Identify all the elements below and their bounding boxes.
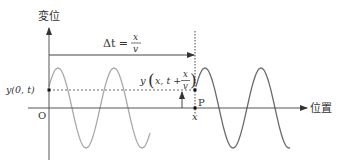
- point-p-label: P: [198, 97, 205, 108]
- point-x-label: x: [192, 111, 198, 122]
- delta-t-denominator: v: [133, 44, 138, 54]
- right-point-marker: [194, 89, 197, 92]
- x-axis-label: 位置: [310, 101, 332, 115]
- delta-t-lhs: Δt =: [103, 37, 128, 50]
- origin-label: O: [38, 110, 46, 121]
- left-point-marker: [48, 89, 51, 92]
- point-p-marker: [194, 107, 197, 110]
- y-axis-label: 変位: [38, 9, 60, 23]
- right-point-label-numerator: x: [183, 69, 188, 79]
- delta-t-numerator: x: [133, 32, 138, 42]
- right-point-label-close-paren: ): [190, 70, 197, 90]
- left-point-label: y(0, t): [5, 84, 35, 95]
- wave-propagation-diagram: 変位 位置 O Δt = x v y(0, t) y ( x, t + x v …: [0, 0, 344, 168]
- right-point-label-denominator: v: [183, 81, 188, 91]
- diagram-svg: 変位 位置 O Δt = x v y(0, t) y ( x, t + x v …: [0, 0, 344, 168]
- right-point-label-open-paren: (: [148, 70, 155, 90]
- right-point-label-prefix: y: [139, 75, 146, 86]
- right-point-label-inner: x, t +: [155, 75, 181, 86]
